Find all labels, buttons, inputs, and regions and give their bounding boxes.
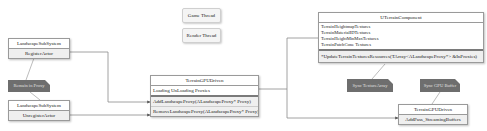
landscape-subsystem-unregister[interactable]: LandscapeSubSystem UnregisterActor <box>8 100 70 121</box>
method-add-landscape-proxy: AddLandscapeProxy(ALandscapeProxy* Proxy… <box>151 95 258 106</box>
game-thread-label: Game Thread <box>182 8 221 23</box>
method-update-terrain-textures: *UpdateTerrainTexturesResources(TArray<A… <box>319 49 483 62</box>
field-patchcone-textures: TerrainPatchCone Textures <box>319 42 483 48</box>
method-unregister-actor: UnregisterActor <box>9 111 69 120</box>
note-remain-in-proxy: Remain in Proxy <box>8 80 50 92</box>
class-title: LandscapeSubSystem <box>9 39 69 49</box>
note-sync-texture-array: Sync TextureArray <box>347 79 393 92</box>
class-title: LandscapeSubSystem <box>9 101 69 111</box>
terrain-gpu-driven-small[interactable]: TerrainGPUDriven AddPass_StreamingBuffer… <box>398 104 468 125</box>
method-remove-landscape-proxy: RemoveLandscapeProxy(ALandscapeProxy* Pr… <box>151 106 258 116</box>
render-thread-label: Render Thread <box>182 28 221 43</box>
uterrain-component[interactable]: UTerrainComponent TerrainHeightmapTextur… <box>318 12 484 63</box>
class-title: TerrainGPUDriven <box>399 105 467 115</box>
terrain-gpu-driven-main[interactable]: TerrainGPUDriven Loading UnLoading Proxi… <box>150 75 259 117</box>
method-register-actor: RegisterActor <box>9 49 69 58</box>
class-title: TerrainGPUDriven <box>151 76 258 86</box>
note-sync-gpu-buffer: Sync GPU Buffer <box>420 79 460 92</box>
method-addpass-streaming-buffers: AddPass_StreamingBuffers <box>399 115 467 124</box>
field-loading-proxies: Loading UnLoading Proxies <box>151 86 258 95</box>
class-title: UTerrainComponent <box>319 13 483 23</box>
landscape-subsystem-register[interactable]: LandscapeSubSystem RegisterActor <box>8 38 70 59</box>
